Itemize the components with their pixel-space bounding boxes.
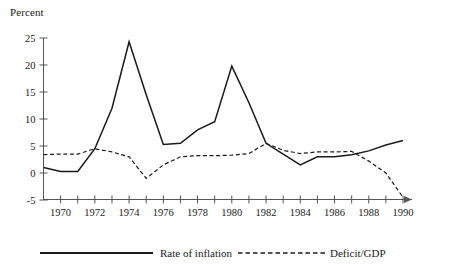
x-axis-arrow-icon (404, 196, 412, 203)
x-axis-tick-labels: 1970197219741976197819801982198419861988… (50, 207, 413, 218)
chart-figure: Percent 2520151050-5 1970197219741976197… (0, 0, 476, 275)
svg-text:1984: 1984 (290, 207, 312, 218)
svg-text:1978: 1978 (187, 207, 208, 218)
svg-text:1982: 1982 (256, 207, 277, 218)
legend-label-rate-of-inflation: Rate of inflation (160, 247, 232, 260)
svg-text:1976: 1976 (153, 207, 174, 218)
svg-text:0: 0 (30, 168, 35, 179)
svg-text:1980: 1980 (221, 207, 242, 218)
svg-text:20: 20 (25, 60, 36, 71)
svg-text:1988: 1988 (358, 207, 379, 218)
series-line-deficit-gdp (44, 143, 404, 197)
x-axis-ticks (61, 196, 403, 204)
svg-text:1970: 1970 (50, 207, 71, 218)
svg-text:5: 5 (30, 141, 35, 152)
svg-text:1986: 1986 (324, 207, 345, 218)
series-line-rate-of-inflation (44, 42, 404, 172)
y-axis-tick-labels: 2520151050-5 (25, 33, 36, 206)
svg-text:25: 25 (25, 33, 36, 44)
line-chart-plot: 2520151050-5 197019721974197619781980198… (0, 0, 476, 275)
legend-label-deficit-gdp: Deficit/GDP (330, 247, 386, 260)
svg-text:10: 10 (25, 114, 36, 125)
svg-text:1972: 1972 (84, 207, 105, 218)
svg-text:-5: -5 (27, 195, 36, 206)
svg-text:1990: 1990 (393, 207, 414, 218)
svg-text:15: 15 (25, 87, 36, 98)
svg-text:1974: 1974 (119, 207, 141, 218)
